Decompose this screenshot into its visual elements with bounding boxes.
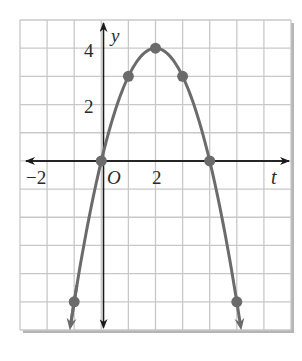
data-point <box>231 296 242 307</box>
parabola-chart: y t 4 2 −2 2 O <box>0 0 302 361</box>
t-axis-label: t <box>271 166 277 188</box>
origin-label: O <box>107 167 121 188</box>
y-tick-4: 4 <box>84 40 94 61</box>
data-point <box>204 155 215 166</box>
data-point <box>123 71 134 82</box>
data-point <box>96 155 107 166</box>
data-point <box>69 296 80 307</box>
data-point <box>177 71 188 82</box>
data-point <box>150 43 161 54</box>
x-tick-2: 2 <box>152 167 162 188</box>
x-tick-neg2: −2 <box>26 167 46 188</box>
y-axis-label: y <box>109 25 120 46</box>
y-tick-2: 2 <box>84 96 94 117</box>
